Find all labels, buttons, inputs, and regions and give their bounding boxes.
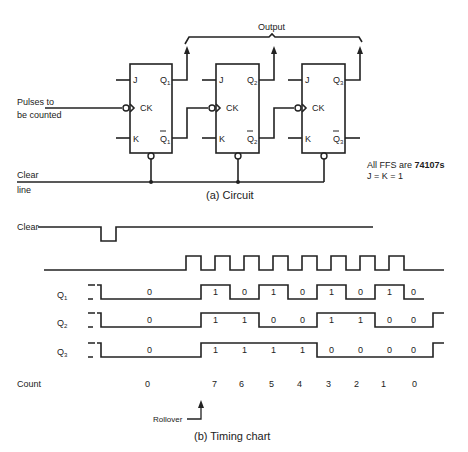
q2-label: Q2 [57,318,68,329]
svg-text:1: 1 [387,287,392,297]
clock-waveform [44,256,444,270]
ff3-ck-label: CK [312,103,325,113]
svg-text:4: 4 [297,379,302,389]
clear-line-label2: line [17,185,31,195]
timing-chart: Clear Q1 0 1 0 1 0 1 0 1 0 Q2 0 [17,222,444,442]
svg-text:1: 1 [358,315,363,325]
svg-text:7: 7 [212,379,217,389]
jk-note: J = K = 1 [367,171,403,181]
svg-text:0: 0 [242,287,247,297]
q1-label: Q1 [57,290,68,301]
svg-text:0: 0 [147,287,152,297]
svg-text:1: 1 [213,345,218,355]
svg-text:0: 0 [358,345,363,355]
svg-text:0: 0 [145,379,150,389]
svg-text:1: 1 [300,345,305,355]
ff1-j-label: J [133,75,138,85]
svg-text:0: 0 [300,315,305,325]
svg-text:1: 1 [271,345,276,355]
svg-text:0: 0 [412,379,417,389]
svg-text:1: 1 [213,287,218,297]
flip-flop-2: J CK K Q2 Q2 [202,46,294,184]
flip-flop-1: J CK K Q1 Q1 [116,46,208,184]
ff2-j-label: J [219,75,224,85]
ff1-k-label: K [133,134,139,144]
q3-label: Q3 [57,347,68,358]
counter-diagram: Output Pulses to be counted J CK K Q1 Q1 [0,0,468,452]
circuit-caption: (a) Circuit [206,189,254,201]
svg-text:1: 1 [242,345,247,355]
ff-type-note: All FFS are 74107s [367,160,445,170]
svg-text:0: 0 [358,287,363,297]
q3-waveform: Q3 0 1 1 1 1 0 0 0 0 [57,343,444,358]
svg-text:1: 1 [329,287,334,297]
svg-text:0: 0 [147,315,152,325]
svg-text:3: 3 [326,379,331,389]
svg-text:1: 1 [329,315,334,325]
rollover-label: Rollover [153,415,183,424]
svg-text:0: 0 [411,345,416,355]
svg-text:2: 2 [354,379,359,389]
clear-waveform: Clear [17,222,373,241]
clear-line-label1: Clear [17,170,39,180]
output-label: Output [258,22,286,32]
svg-text:5: 5 [269,379,274,389]
svg-text:1: 1 [381,379,386,389]
svg-text:0: 0 [271,315,276,325]
count-row: Count 0 7 6 5 4 3 2 1 0 [17,379,417,389]
ff3-k-label: K [305,134,311,144]
ff3-j-label: J [305,75,310,85]
flip-flop-3: J CK K Q3 Q3 [288,46,363,182]
svg-text:1: 1 [271,287,276,297]
output-bracket: Output [185,22,362,44]
svg-text:6: 6 [239,379,244,389]
svg-text:0: 0 [387,345,392,355]
svg-text:0: 0 [411,287,416,297]
timing-caption: (b) Timing chart [194,430,270,442]
svg-text:0: 0 [411,315,416,325]
clear-signal-label: Clear [17,222,39,232]
q1-waveform: Q1 0 1 0 1 0 1 0 1 0 [57,285,424,301]
clear-line: Clear line [17,170,324,195]
svg-text:0: 0 [387,315,392,325]
svg-text:0: 0 [147,345,152,355]
input-label-line2: be counted [17,110,62,120]
rollover-annotation: Rollover [153,400,204,424]
circuit: Output Pulses to be counted J CK K Q1 Q1 [17,22,445,201]
ff1-ck-label: CK [140,103,153,113]
input-label-line1: Pulses to [17,97,54,107]
q2-waveform: Q2 0 1 1 0 0 1 1 0 0 [57,313,444,329]
svg-text:1: 1 [242,315,247,325]
svg-text:0: 0 [329,345,334,355]
count-label: Count [17,379,42,389]
ff2-ck-label: CK [226,103,239,113]
svg-text:1: 1 [213,315,218,325]
ff2-k-label: K [219,134,225,144]
svg-text:0: 0 [300,287,305,297]
